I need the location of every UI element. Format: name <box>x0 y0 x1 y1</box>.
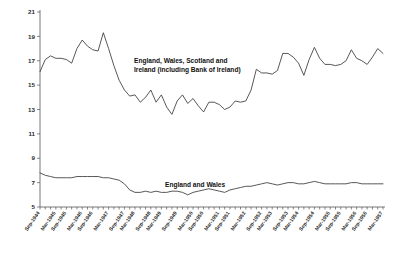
y-tick-label: 7 <box>32 179 36 186</box>
x-tick-label: Mar-1957 <box>366 210 384 232</box>
y-tick-label: 21 <box>28 8 35 15</box>
series-annotation-1: England and Wales <box>165 181 226 189</box>
y-tick-label: 19 <box>28 33 35 40</box>
y-tick-label: 17 <box>28 57 35 64</box>
x-axis: Sep-1944Mar-1945Sep-1945Mar-1946Sep-1946… <box>23 207 385 232</box>
series-line-0 <box>40 33 383 115</box>
y-tick-label: 11 <box>28 130 35 137</box>
series-annotations: England, Wales, Scotland andIreland (inc… <box>134 57 241 189</box>
series-annotation-0: England, Wales, Scotland and <box>134 57 228 65</box>
y-tick-label: 15 <box>28 81 35 88</box>
y-axis: 579111315171921 <box>28 8 40 210</box>
chart-container: 579111315171921 Sep-1944Mar-1945Sep-1945… <box>0 0 394 256</box>
y-tick-label: 9 <box>32 154 36 161</box>
line-chart-svg: 579111315171921 Sep-1944Mar-1945Sep-1945… <box>0 0 394 256</box>
y-tick-label: 5 <box>32 203 36 210</box>
y-tick-label: 13 <box>28 106 35 113</box>
series-annotation-0-line2: Ireland (including Bank of Ireland) <box>134 66 241 74</box>
